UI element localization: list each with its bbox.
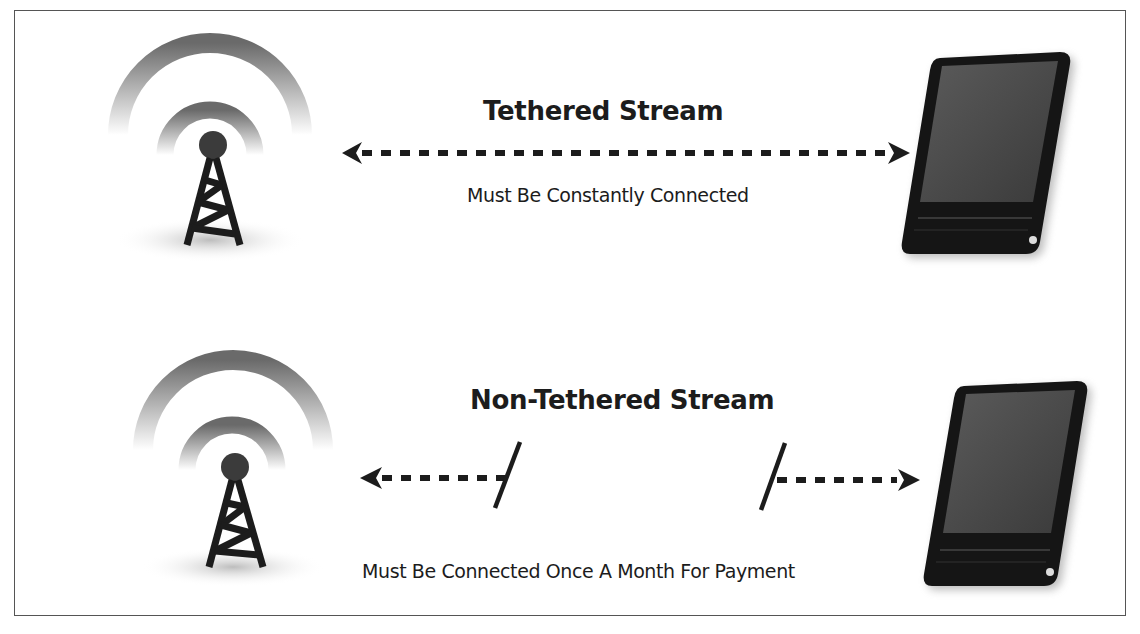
tethered-stream-title: Tethered Stream [483,96,723,126]
cell-tower-icon [110,30,310,260]
non-tethered-stream-title: Non-Tethered Stream [470,385,774,415]
tethered-stream-caption: Must Be Constantly Connected [467,184,749,206]
left-broken-arrow [355,440,525,515]
non-tethered-stream-caption: Must Be Connected Once A Month For Payme… [362,560,795,582]
smartphone-icon [922,378,1092,593]
cell-tower-icon [135,355,335,585]
bidirectional-dashed-arrow [340,140,915,170]
right-broken-arrow [755,440,925,515]
smartphone-icon [900,50,1075,260]
